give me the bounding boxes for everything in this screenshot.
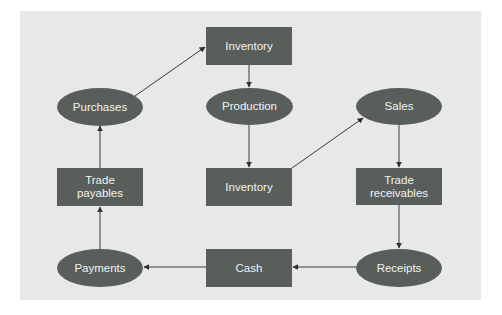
node-label-line2: receivables: [370, 187, 428, 200]
node-purchases: Purchases: [57, 88, 143, 126]
node-trade-receivables: Trade receivables: [356, 168, 442, 205]
node-label: Production: [222, 100, 277, 113]
node-label: Receipts: [377, 262, 422, 275]
edge-purchases-to-inventory: [135, 47, 205, 96]
edge-inventory-to-sales: [292, 118, 363, 168]
node-trade-payables: Trade payables: [57, 168, 143, 206]
node-sales: Sales: [356, 88, 442, 125]
node-label: Inventory: [225, 40, 272, 53]
node-label: Sales: [385, 100, 414, 113]
node-cash: Cash: [206, 249, 292, 287]
node-payments: Payments: [57, 249, 143, 287]
node-label-line1: Trade: [384, 174, 414, 187]
node-label-line1: Trade: [85, 174, 115, 187]
node-label: Purchases: [73, 101, 127, 114]
node-label: Inventory: [225, 181, 272, 194]
node-label: Cash: [236, 262, 263, 275]
node-production: Production: [206, 88, 293, 125]
node-label-line2: payables: [77, 187, 123, 200]
node-inventory-middle: Inventory: [206, 168, 292, 206]
node-receipts: Receipts: [356, 249, 442, 287]
node-inventory-top: Inventory: [206, 27, 292, 65]
node-label: Payments: [74, 262, 125, 275]
